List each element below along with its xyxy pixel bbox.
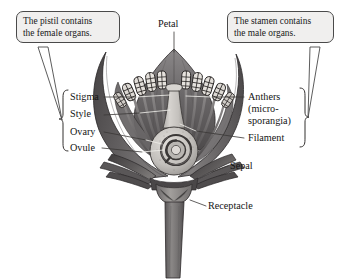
callout-stamen: The stamen contains the male organs. <box>227 11 334 43</box>
flower-diagram-page: The pistil contains the female organs. T… <box>0 0 348 280</box>
stem <box>165 202 184 278</box>
label-stigma: Stigma <box>70 91 99 103</box>
callout-pistil: The pistil contains the female organs. <box>16 11 120 43</box>
label-sepal: Sepal <box>230 160 253 172</box>
label-filament: Filament <box>248 132 284 144</box>
label-ovary: Ovary <box>70 126 95 138</box>
label-receptacle: Receptacle <box>208 200 253 212</box>
label-petal: Petal <box>158 18 178 30</box>
label-anthers: Anthers (micro- sporangia) <box>248 91 291 126</box>
label-style: Style <box>70 108 91 120</box>
label-ovule: Ovule <box>70 142 95 154</box>
